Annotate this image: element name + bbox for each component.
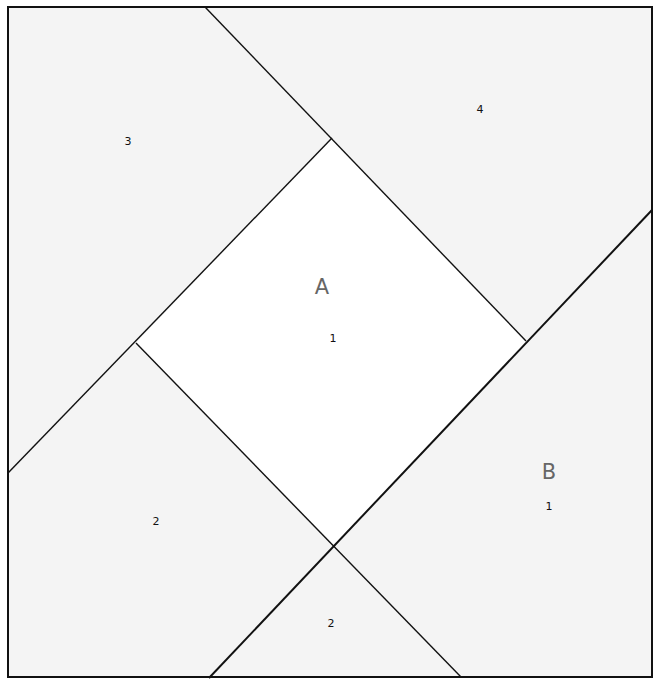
quilt-block-diagram bbox=[0, 0, 656, 686]
section-label-a: A bbox=[315, 275, 329, 299]
piece-number-a2-left: 2 bbox=[153, 515, 160, 528]
piece-number-a4: 4 bbox=[477, 103, 484, 116]
piece-number-a2-bottom: 2 bbox=[328, 617, 335, 630]
piece-number-a3: 3 bbox=[125, 135, 132, 148]
section-label-b: B bbox=[542, 460, 556, 484]
piece-number-a1: 1 bbox=[330, 332, 337, 345]
piece-number-b1: 1 bbox=[546, 500, 553, 513]
